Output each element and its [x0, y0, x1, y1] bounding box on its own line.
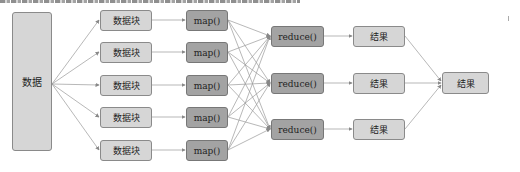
partial-result-label: 结果 [370, 30, 388, 43]
chunk-node: 数据块 [100, 42, 152, 63]
map-node: map() [186, 140, 228, 161]
partial-result-label: 结果 [370, 77, 388, 90]
stray-mark [508, 16, 509, 21]
reduce-node: reduce() [271, 119, 324, 140]
reduce-node: reduce() [271, 73, 324, 94]
map-node: map() [186, 107, 228, 128]
map-node: map() [186, 75, 228, 96]
map-label: map() [194, 81, 221, 91]
partial-result-node: 结果 [353, 26, 405, 47]
partial-result-node: 结果 [353, 73, 405, 94]
chunk-node: 数据块 [100, 75, 152, 96]
source-data-label: 数据 [22, 74, 42, 89]
chunk-node: 数据块 [100, 140, 152, 161]
final-result-node: 结果 [442, 72, 489, 94]
partial-result-label: 结果 [370, 123, 388, 136]
map-label: map() [194, 113, 221, 123]
chunk-label: 数据块 [113, 144, 140, 157]
chunk-node: 数据块 [100, 107, 152, 128]
map-node: map() [186, 10, 228, 31]
map-label: map() [194, 48, 221, 58]
chunk-node: 数据块 [100, 10, 152, 31]
map-label: map() [194, 146, 221, 156]
reduce-label: reduce() [278, 79, 317, 89]
chunk-label: 数据块 [113, 111, 140, 124]
reduce-node: reduce() [271, 26, 324, 47]
source-data-node: 数据 [12, 12, 52, 151]
partial-result-node: 结果 [353, 119, 405, 140]
chunk-label: 数据块 [113, 79, 140, 92]
reduce-label: reduce() [278, 125, 317, 135]
final-result-label: 结果 [457, 77, 475, 90]
chunk-label: 数据块 [113, 46, 140, 59]
chunk-label: 数据块 [113, 14, 140, 27]
map-node: map() [186, 42, 228, 63]
reduce-label: reduce() [278, 32, 317, 42]
map-label: map() [194, 16, 221, 26]
